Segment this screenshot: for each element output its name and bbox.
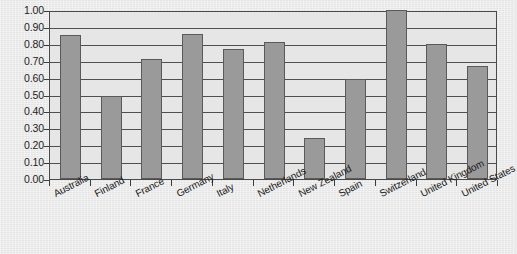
x-axis-ticks	[49, 180, 497, 187]
y-axis-tick-label: 1.00	[0, 5, 44, 16]
y-axis-tick-mark	[44, 45, 49, 46]
y-axis-tick-label: 0.20	[0, 140, 44, 151]
y-axis-tick-label: 0.70	[0, 56, 44, 67]
y-axis-tick-mark	[44, 146, 49, 147]
y-axis-tick-label: 0.80	[0, 39, 44, 50]
y-axis-tick-mark	[44, 112, 49, 113]
x-axis-tick-mark	[49, 180, 50, 186]
x-axis-tick-mark	[416, 180, 417, 186]
x-axis-tick-mark	[334, 180, 335, 186]
y-axis-tick-label: 0.10	[0, 157, 44, 168]
y-axis-tick-mark	[44, 129, 49, 130]
y-axis-tick-mark	[44, 96, 49, 97]
y-axis-tick-mark	[44, 11, 49, 12]
x-axis-tick-mark	[497, 180, 498, 186]
x-axis-tick-mark	[212, 180, 213, 186]
y-axis-tick-mark	[44, 28, 49, 29]
y-axis-tick-mark	[44, 163, 49, 164]
x-axis-tick-mark	[253, 180, 254, 186]
y-axis-tick-label: 0.40	[0, 106, 44, 117]
x-axis-tick-mark	[293, 180, 294, 186]
y-axis-tick-label: 0.00	[0, 174, 44, 185]
x-axis-tick-mark	[456, 180, 457, 186]
y-axis-tick-mark	[44, 79, 49, 80]
y-axis-tick-label: 0.60	[0, 73, 44, 84]
y-axis-tick-label: 0.50	[0, 90, 44, 101]
x-axis-tick-mark	[90, 180, 91, 186]
y-axis: 1.000.900.800.700.600.500.400.300.200.10…	[0, 11, 514, 180]
y-axis-tick-label: 0.90	[0, 22, 44, 33]
y-axis-tick-label: 0.30	[0, 123, 44, 134]
y-axis-tick-mark	[44, 62, 49, 63]
x-axis-tick-mark	[130, 180, 131, 186]
x-axis-tick-mark	[375, 180, 376, 186]
x-axis-tick-mark	[171, 180, 172, 186]
